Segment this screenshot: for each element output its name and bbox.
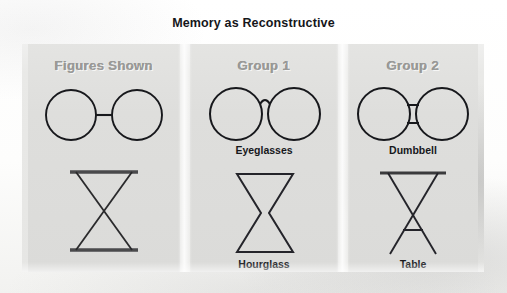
figure-label-table: Table [348, 258, 478, 270]
page-title: Memory as Reconstructive [0, 16, 507, 30]
stimulus-crossed-lines-with-bars [54, 168, 154, 254]
figure-plate: Figures Shown Group 1 [22, 44, 484, 272]
column-group-2: Group 2 Dumbbell Table [348, 44, 478, 272]
drawing-eyeglasses [204, 84, 326, 142]
drawing-table [370, 168, 456, 258]
memory-reconstructive-figure: Memory as Reconstructive Figures Shown G… [0, 0, 507, 293]
column-header-group-2: Group 2 [348, 58, 478, 73]
stimulus-circles-with-bar [44, 84, 164, 146]
column-figures-shown: Figures Shown [28, 44, 180, 272]
figure-label-eyeglasses: Eyeglasses [190, 144, 338, 156]
drawing-dumbbell [354, 84, 472, 142]
column-header-figures-shown: Figures Shown [28, 58, 180, 73]
figure-label-dumbbell: Dumbbell [348, 144, 478, 156]
drawing-hourglass [223, 170, 307, 256]
figure-label-hourglass: Hourglass [190, 258, 338, 270]
column-header-group-1: Group 1 [190, 58, 338, 73]
column-group-1: Group 1 Eyeglasses Hourglass [190, 44, 338, 272]
